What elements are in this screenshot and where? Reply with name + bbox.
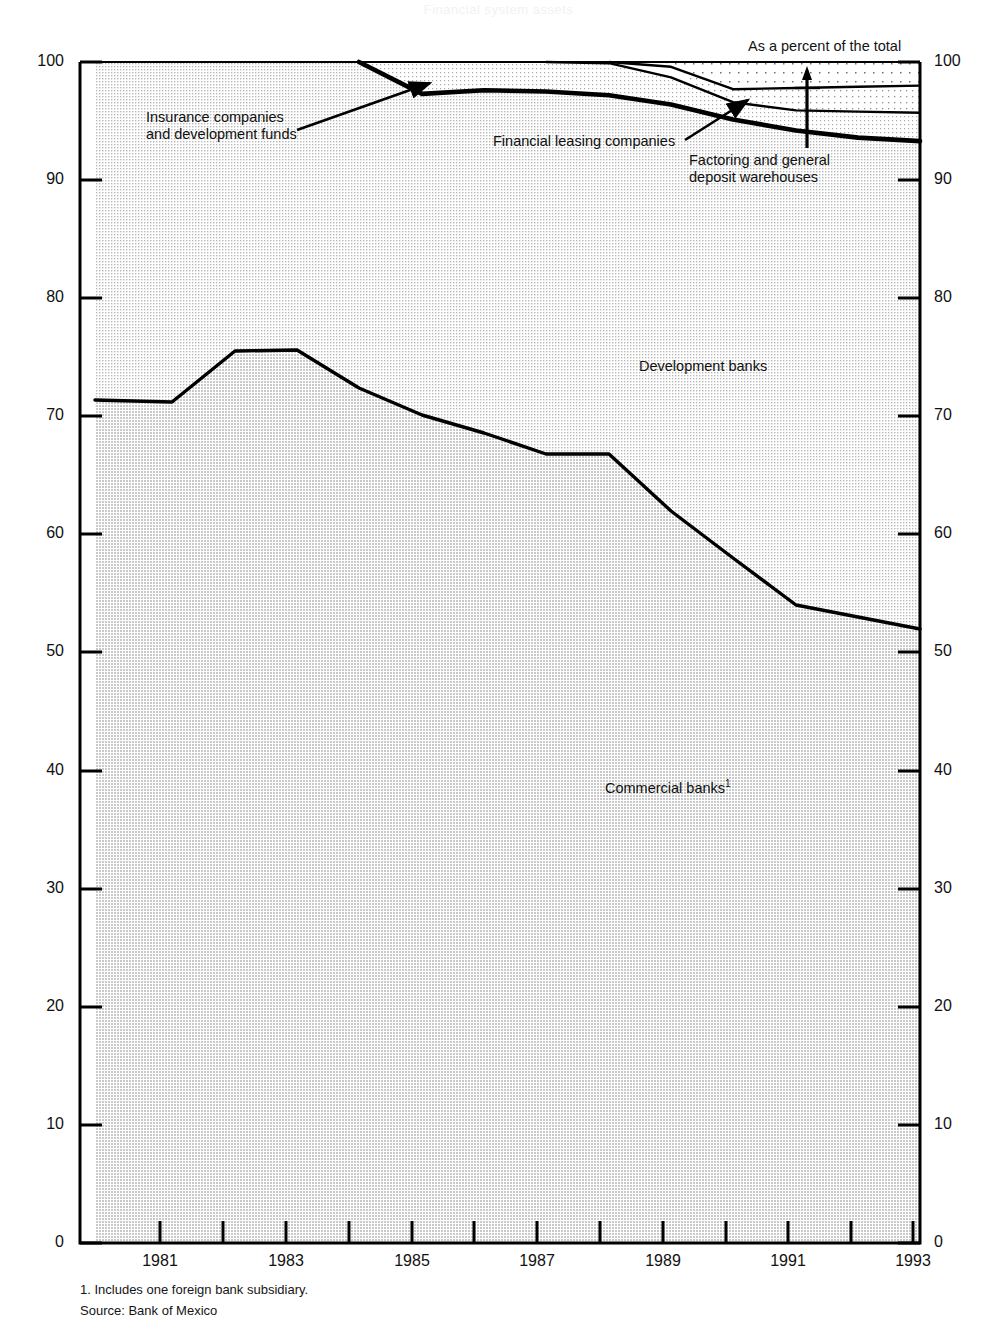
plot-area <box>0 0 997 1331</box>
y-left-label-60: 60 <box>18 524 64 542</box>
annotation-development-banks: Development banks <box>639 358 767 375</box>
x-label-1985: 1985 <box>377 1252 447 1270</box>
y-left-label-0: 0 <box>18 1233 64 1251</box>
x-label-1989: 1989 <box>628 1252 698 1270</box>
y-left-label-20: 20 <box>18 997 64 1015</box>
annotation-commercial-banks: Commercial banks1 <box>605 778 731 797</box>
x-label-1993: 1993 <box>878 1252 948 1270</box>
annotation-commercial-banks-superscript: 1 <box>725 778 731 789</box>
chart-svg <box>0 0 997 1331</box>
y-left-label-100: 100 <box>18 52 64 70</box>
y-right-label-80: 80 <box>934 288 980 306</box>
y-right-label-100: 100 <box>934 52 980 70</box>
annotation-insurance-line2: and development funds <box>146 126 297 143</box>
y-left-label-80: 80 <box>18 288 64 306</box>
x-label-1987: 1987 <box>502 1252 572 1270</box>
y-left-label-10: 10 <box>18 1115 64 1133</box>
y-right-label-20: 20 <box>934 997 980 1015</box>
annotation-factoring-line2: deposit warehouses <box>689 169 830 186</box>
y-left-label-50: 50 <box>18 642 64 660</box>
y-left-label-40: 40 <box>18 761 64 779</box>
y-right-label-0: 0 <box>934 1233 980 1251</box>
annotation-insurance-line1: Insurance companies <box>146 109 297 126</box>
y-right-label-70: 70 <box>934 406 980 424</box>
x-label-1981: 1981 <box>125 1252 195 1270</box>
source-note: Source: Bank of Mexico <box>80 1303 217 1318</box>
y-left-label-70: 70 <box>18 406 64 424</box>
y-right-label-90: 90 <box>934 170 980 188</box>
x-label-1983: 1983 <box>251 1252 321 1270</box>
y-left-label-90: 90 <box>18 170 64 188</box>
y-right-label-30: 30 <box>934 879 980 897</box>
y-right-label-50: 50 <box>934 642 980 660</box>
annotation-commercial-banks-label: Commercial banks <box>605 780 725 796</box>
footnote-1: 1. Includes one foreign bank subsidiary. <box>80 1282 308 1297</box>
y-right-label-60: 60 <box>934 524 980 542</box>
annotation-insurance: Insurance companies and development fund… <box>146 109 297 143</box>
x-label-1991: 1991 <box>753 1252 823 1270</box>
annotation-factoring: Factoring and general deposit warehouses <box>689 152 830 186</box>
chart-page: Financial system assets As a percent of … <box>0 0 997 1331</box>
y-right-label-10: 10 <box>934 1115 980 1133</box>
y-left-label-30: 30 <box>18 879 64 897</box>
annotation-factoring-line1: Factoring and general <box>689 152 830 169</box>
annotation-leasing: Financial leasing companies <box>493 133 675 150</box>
y-right-label-40: 40 <box>934 761 980 779</box>
